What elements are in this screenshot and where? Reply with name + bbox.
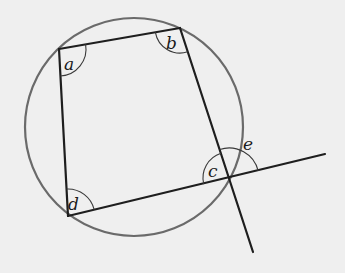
cyclic-quadrilateral-diagram: a b c d e xyxy=(0,0,345,273)
side-dc-extended xyxy=(68,154,325,216)
angle-label-d: d xyxy=(68,194,79,214)
angle-label-e: e xyxy=(243,134,253,154)
angle-label-b: b xyxy=(166,33,177,53)
circumcircle xyxy=(25,18,243,236)
angle-label-c: c xyxy=(208,161,218,181)
angle-label-a: a xyxy=(64,54,74,74)
side-ad xyxy=(59,49,68,216)
